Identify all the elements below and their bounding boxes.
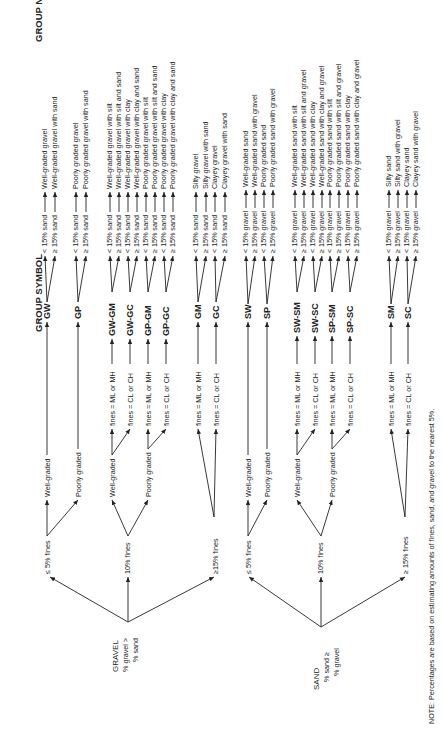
symbol-GM: GM (193, 305, 203, 320)
group-name: Well-graded sand with clay (308, 101, 317, 187)
gravel-fines-mlmh-15: fines = ML or MH (194, 371, 203, 426)
sand-fines-clch-well: fines = CL or CH (311, 373, 320, 426)
group-name: Well-graded gravel with silt (105, 103, 114, 189)
sand-grading-well-10: Well-graded (293, 458, 302, 497)
condition-lt: < 15% gravel (259, 210, 268, 253)
group-name: Silty gravel with sand (201, 121, 210, 189)
sand-grading-poor-10: Poorly graded (328, 452, 337, 497)
group-name: Well-graded sand with silt and gravel (299, 69, 308, 187)
sand-leaves: < 15% gravel ≥ 15% gravel < 15% gravel ≥… (241, 59, 420, 253)
condition-lt: < 15% sand (123, 215, 132, 253)
condition-lt: < 15% sand (141, 215, 150, 253)
symbol-GP: GP (73, 306, 83, 319)
sand-root-line1: % sand ≥ (322, 652, 331, 682)
gravel-fines-mlmh-poor: fines = ML or MH (144, 371, 153, 426)
condition-lt: < 15% gravel (343, 210, 352, 253)
group-name: Poorly graded sand with silt and gravel (334, 63, 343, 187)
sand-root-line2: % gravel (332, 648, 341, 676)
condition-lt: < 15% sand (105, 215, 114, 253)
symbol-GC: GC (211, 305, 221, 319)
group-name: Silty gravel (191, 153, 200, 189)
group-name: Poorly graded sand with silt (325, 99, 334, 187)
symbol-GP-GM: GP-GM (143, 306, 153, 337)
group-name: Poorly graded sand with gravel (268, 88, 277, 187)
group-name: Poorly graded sand with clay (343, 95, 352, 187)
gravel-leaves: < 15% sand ≥ 15% sand < 15% sand ≥ 15% s… (40, 62, 229, 253)
gravel-root-line1: % gravel > (121, 638, 130, 672)
sand-fines-mlmh-15: fines = ML or MH (387, 371, 396, 426)
condition-ge: ≥ 15% gravel (393, 211, 402, 253)
group-name: Well-graded gravel with clay (123, 99, 132, 189)
condition-ge: ≥ 15% gravel (268, 211, 277, 253)
group-name: Clayey gravel with sand (220, 113, 229, 189)
symbol-SP: SP (262, 307, 272, 319)
symbol-SW-SM: SW-SM (292, 302, 302, 333)
condition-lt: < 15% gravel (402, 210, 411, 253)
symbol-SC: SC (403, 306, 413, 319)
condition-lt: < 15% gravel (384, 210, 393, 253)
symbol-GW-GM: GW-GM (107, 303, 117, 336)
gravel-fines-mid: 10% fines (123, 542, 132, 574)
group-name: Well-graded gravel (40, 128, 49, 189)
gravel-fines-clch-15: fines = CL or CH (212, 373, 221, 426)
group-name: Silty sand with gravel (393, 119, 402, 187)
gravel-fines-high: ≥15% fines (211, 538, 220, 574)
gravel-branch: GRAVEL % gravel > % sand ≤ 5% fines 10% … (40, 62, 229, 672)
group-name: Well-graded gravel with sand (50, 96, 59, 189)
condition-ge: ≥ 15% sand (114, 215, 123, 253)
condition-ge: ≥ 15% sand (168, 215, 177, 253)
symbol-GP-GC: GP-GC (161, 306, 171, 336)
sand-fines-mlmh-well: fines = ML or MH (293, 371, 302, 426)
header-group-symbol: GROUP SYMBOL (33, 254, 44, 332)
group-name: Well-graded gravel with silt and sand (114, 72, 123, 189)
sand-fines-mlmh-poor: fines = ML or MH (328, 371, 337, 426)
condition-ge: ≥ 15% sand (81, 215, 90, 253)
gravel-grading-poor-10: Poorly graded (144, 452, 153, 497)
condition-lt: < 15% sand (159, 215, 168, 253)
gravel-grading-well: Well-graded (43, 458, 52, 497)
group-name: Clayey gravel (210, 145, 219, 189)
condition-ge: ≥ 15% gravel (352, 211, 361, 253)
group-name: Well-graded sand with silt (290, 105, 299, 187)
gravel-fines-mlmh-well: fines = ML or MH (108, 371, 117, 426)
flowchart-svg: GROUP SYMBOL GROUP NAME GRAVEL % gravel … (0, 0, 446, 732)
group-name: Silty sand (384, 156, 393, 187)
symbol-SW: SW (243, 304, 253, 319)
condition-lt: < 15% sand (191, 215, 200, 253)
sand-fines-clch-15: fines = CL or CH (404, 373, 413, 426)
sand-fines-clch-poor: fines = CL or CH (346, 373, 355, 426)
condition-ge: ≥ 15% gravel (334, 211, 343, 253)
group-name: Well-graded sand with gravel (250, 94, 259, 187)
symbol-GW: GW (42, 303, 52, 319)
condition-lt: < 15% sand (71, 215, 80, 253)
condition-ge: ≥ 15% gravel (250, 211, 259, 253)
footnote: NOTE: Percentages are based on estimatin… (427, 409, 436, 724)
group-name: Poorly graded gravel with sand (81, 90, 90, 189)
group-name: Clayey sand (402, 147, 411, 187)
condition-lt: < 15% gravel (290, 210, 299, 253)
group-name: Poorly graded gravel with clay and sand (168, 62, 177, 189)
sand-fines-mid: 10% fines (316, 542, 325, 574)
group-name: Poorly graded sand (259, 125, 268, 187)
sand-fines-high: ≥ 15% fines (401, 536, 410, 574)
condition-ge: ≥ 15% sand (50, 215, 59, 253)
condition-lt: < 15% sand (40, 215, 49, 253)
symbol-SP-SC: SP-SC (345, 305, 355, 333)
gravel-grading-poor: Poorly graded (74, 452, 83, 497)
symbol-GW-GC: GW-GC (125, 304, 135, 336)
symbol-SW-SC: SW-SC (310, 303, 320, 333)
group-name: Poorly graded gravel with silt and sand (150, 66, 159, 189)
sand-branch: SAND % sand ≥ % gravel ≤ 5% fines 10% fi… (241, 59, 420, 690)
group-name: Well-graded sand (241, 131, 250, 187)
condition-ge: ≥ 15% sand (132, 215, 141, 253)
gravel-root-line2: % sand (131, 638, 140, 662)
gravel-fines-clch-poor: fines = CL or CH (162, 373, 171, 426)
condition-ge: ≥ 15% gravel (299, 211, 308, 253)
symbol-SM: SM (386, 306, 396, 320)
uscs-flowchart: GROUP SYMBOL GROUP NAME GRAVEL % gravel … (0, 0, 446, 732)
group-name: Poorly graded gravel with silt (141, 97, 150, 189)
group-name: Clayey sand with gravel (411, 111, 420, 187)
gravel-grading-well-10: Well-graded (108, 458, 117, 497)
condition-lt: < 15% gravel (241, 210, 250, 253)
symbol-SP-SM: SP-SM (327, 304, 337, 333)
